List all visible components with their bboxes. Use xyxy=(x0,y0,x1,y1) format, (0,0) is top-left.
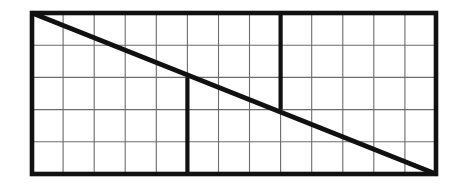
figure-root: Rectangular grid with diagonal and two t… xyxy=(0,0,465,191)
grid-diagram: Rectangular grid with diagonal and two t… xyxy=(0,0,465,191)
